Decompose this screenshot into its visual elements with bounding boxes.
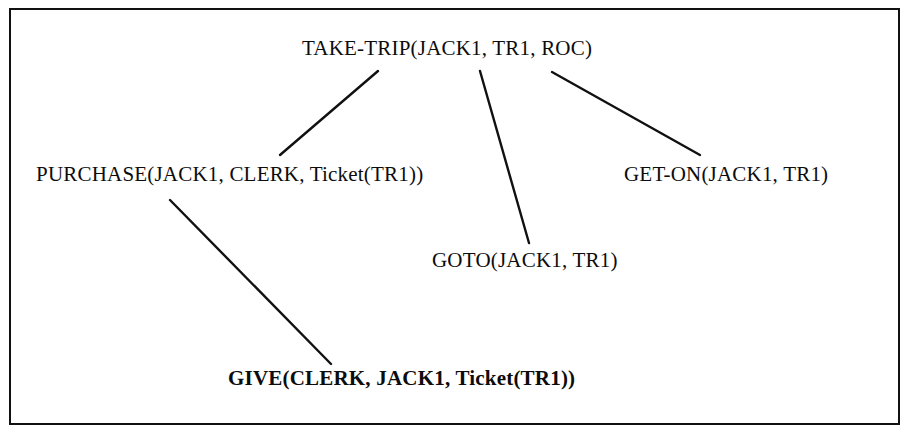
edge-purchase-to-give [170, 200, 331, 364]
node-take-trip: TAKE-TRIP(JACK1, TR1, ROC) [302, 35, 592, 61]
node-goto: GOTO(JACK1, TR1) [432, 247, 618, 273]
edge-take-trip-to-goto [480, 71, 529, 243]
node-give: GIVE(CLERK, JACK1, Ticket(TR1)) [228, 365, 575, 391]
node-purchase: PURCHASE(JACK1, CLERK, Ticket(TR1)) [36, 161, 423, 187]
edge-take-trip-to-purchase [280, 71, 378, 155]
diagram-canvas: TAKE-TRIP(JACK1, TR1, ROC) PURCHASE(JACK… [0, 0, 915, 437]
edge-take-trip-to-get-on [552, 72, 700, 155]
node-get-on: GET-ON(JACK1, TR1) [624, 161, 828, 187]
